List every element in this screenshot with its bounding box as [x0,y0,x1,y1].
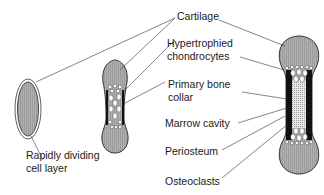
label-hypertrophied-line2: chondrocytes [167,50,229,62]
label-osteoclasts: Osteoclasts [165,175,220,187]
stage-2-early-bone [102,60,128,153]
label-primary-bone-collar-line1: Primary bone [168,78,230,90]
label-marrow-cavity: Marrow cavity [165,117,230,129]
label-hypertrophied-line1: Hypertrophied [167,37,233,49]
stage-1-cartilage-model [15,79,41,139]
stage-3-later-bone [279,36,318,174]
label-rapidly-dividing-line2: cell layer [26,162,67,174]
label-cartilage: Cartilage [177,10,219,22]
label-periosteum: Periosteum [165,145,218,157]
label-primary-bone-collar-line2: collar [168,91,193,103]
label-rapidly-dividing-line1: Rapidly dividing [26,149,100,161]
